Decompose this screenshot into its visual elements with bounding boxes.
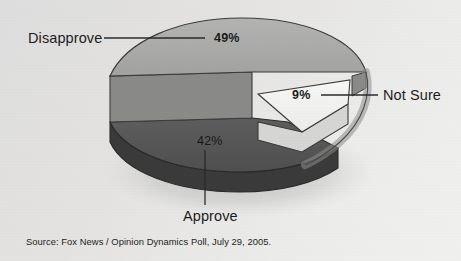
slice-percent-disapprove: 49%: [214, 32, 240, 45]
slice-label-disapprove: Disapprove: [28, 31, 102, 46]
slice-percent-not-sure: 9%: [292, 89, 310, 102]
source-note: Source: Fox News / Opinion Dynamics Poll…: [26, 236, 271, 247]
slice-side-disapprove: [110, 72, 252, 122]
chart-page: Disapprove Not Sure Approve 49% 9% 42% S…: [0, 0, 461, 261]
slice-label-not-sure: Not Sure: [383, 88, 441, 103]
slice-percent-approve: 42%: [197, 135, 223, 148]
slice-label-approve: Approve: [183, 209, 238, 224]
slice-top-disapprove: [110, 18, 366, 76]
